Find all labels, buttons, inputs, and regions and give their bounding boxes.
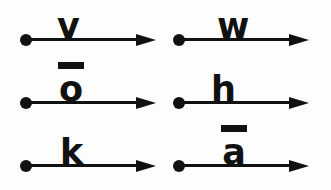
vector-letter: a [222,135,246,170]
vector-item-w: w [153,9,308,72]
vector-label-k: k [60,135,83,170]
arrowhead-icon [289,97,309,109]
macron-icon [221,125,247,132]
arrow-shaft [25,101,143,104]
vector-letter: v [57,9,80,44]
vector-label-a-macron: a [221,125,247,170]
vector-label-v: v [57,9,80,44]
arrowhead-icon [289,160,309,172]
vector-label-o-macron: o [58,62,84,107]
vector-item-o-macron: o [0,72,155,135]
vector-label-w: w [217,9,249,44]
vector-item-k: k [0,135,155,190]
vector-label-h: h [211,72,236,107]
vector-letter: o [59,72,83,107]
macron-icon [58,62,84,69]
arrow-shaft [25,164,143,167]
vector-item-a-macron: a [153,135,308,190]
vector-figure: v w o h [0,0,331,190]
vector-letter: w [217,9,249,44]
arrow-shaft [178,101,296,104]
arrowhead-icon [289,34,309,46]
arrow-shaft [25,38,143,41]
vector-letter: k [60,135,83,170]
vector-letter: h [211,72,236,107]
